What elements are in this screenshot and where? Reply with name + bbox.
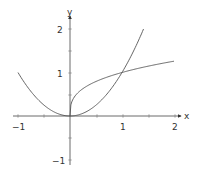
y-axis-label: y	[67, 7, 73, 17]
y-tick-label: 2	[57, 25, 63, 35]
x-axis-label: x	[184, 111, 190, 121]
function-plot: x y −1 1 2 2 1 −1	[0, 0, 197, 170]
curve-cube-root	[70, 61, 174, 116]
curve-parabola	[18, 29, 144, 116]
y-tick-label: −1	[52, 156, 65, 166]
x-tick-label: 1	[120, 122, 126, 132]
y-tick-label: 1	[57, 69, 63, 79]
x-tick-label: 2	[172, 122, 178, 132]
x-tick-label: −1	[12, 122, 25, 132]
